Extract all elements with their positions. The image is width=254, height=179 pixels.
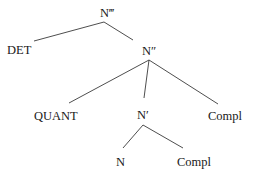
edge-n2-quant xyxy=(69,60,149,103)
edge-root-n2 xyxy=(104,22,133,40)
edge-n1-n xyxy=(123,125,143,148)
node-n-double-bar: N″ xyxy=(142,45,156,58)
edge-n2-compl xyxy=(149,60,218,104)
node-quant: QUANT xyxy=(34,110,78,123)
node-compl-lower: Compl xyxy=(177,156,211,169)
edge-n2-n1 xyxy=(144,60,149,98)
edge-root-det xyxy=(34,22,104,41)
tree-edges xyxy=(0,0,254,179)
node-n-triple-bar: N‴ xyxy=(100,7,114,20)
node-n: N xyxy=(116,156,125,169)
node-compl-upper: Compl xyxy=(208,110,242,123)
node-n-bar: N′ xyxy=(137,109,149,122)
node-det: DET xyxy=(7,44,31,57)
edge-n1-compl xyxy=(143,125,183,148)
